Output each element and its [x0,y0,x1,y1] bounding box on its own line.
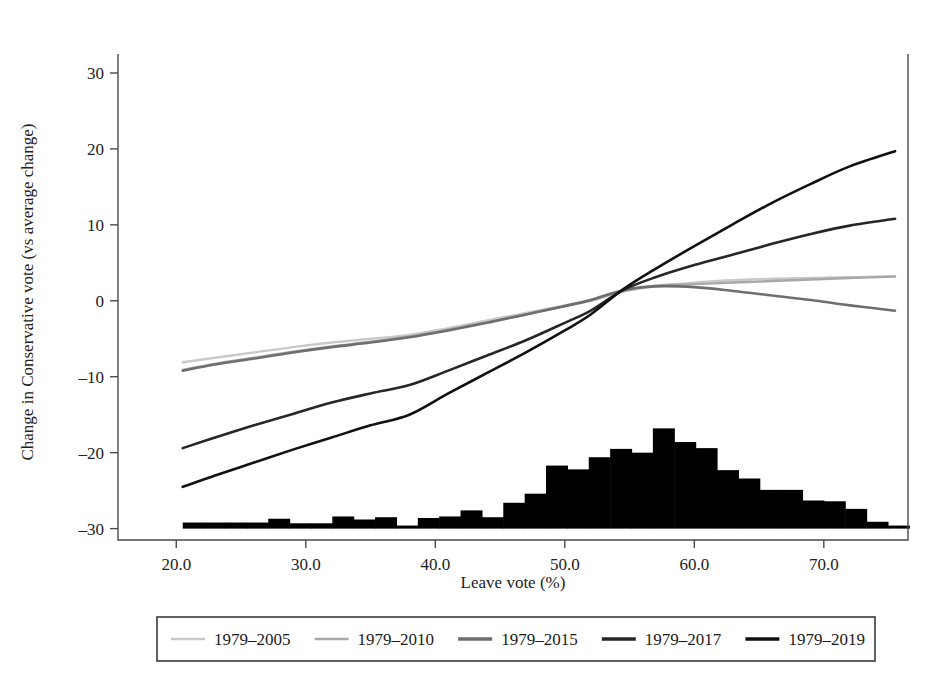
series-layer [183,151,895,487]
y-tick-label: 20 [87,140,104,159]
histogram-bar [653,428,675,528]
y-axis-label: Change in Conservative vote (vs average … [18,123,37,460]
histogram-bar [439,516,461,528]
histogram-bar [589,457,611,528]
histogram-bar [503,503,525,529]
series-line-1979-2005 [183,276,895,362]
x-tick-label: 40.0 [420,555,450,574]
histogram-bar [396,526,418,529]
legend-label-1979-2017[interactable]: 1979–2017 [645,630,722,649]
x-tick-label: 70.0 [809,555,839,574]
histogram-bar [268,519,290,529]
histogram-bar [225,523,247,529]
series-line-1979-2015 [183,286,895,370]
x-tick-label: 20.0 [161,555,191,574]
histogram-bar [867,522,889,529]
histogram-bar [845,509,867,529]
series-line-1979-2019 [183,151,895,487]
histogram-bar [738,478,760,528]
y-tick-label: –10 [78,368,105,387]
legend-label-1979-2015[interactable]: 1979–2015 [501,630,578,649]
histogram-bar [632,453,654,529]
histogram-bar [290,523,312,528]
histogram-bar [824,501,846,528]
y-tick-label: –20 [78,444,105,463]
y-tick-label: 30 [87,64,104,83]
histogram-bar [418,518,440,529]
legend: 1979–20051979–20101979–20151979–20171979… [157,617,875,661]
legend-label-1979-2019[interactable]: 1979–2019 [788,630,865,649]
series-line-1979-2017 [183,219,895,448]
histogram-bar [461,510,483,528]
histogram-layer [183,428,910,528]
histogram-bar [332,516,354,528]
y-tick-label: 0 [96,292,105,311]
chart-canvas: 3020100–10–20–3020.030.040.050.060.070.0… [0,0,939,700]
histogram-bar [888,526,910,529]
histogram-bar [375,517,397,528]
histogram-bar [482,517,504,528]
histogram-bar [802,501,824,529]
x-tick-label: 50.0 [550,555,580,574]
histogram-bar [760,490,782,529]
histogram-bar [525,494,547,529]
histogram-bar [696,448,718,528]
legend-label-1979-2010[interactable]: 1979–2010 [358,630,435,649]
histogram-bar [204,523,226,529]
x-axis-label: Leave vote (%) [461,573,566,592]
x-tick-label: 60.0 [679,555,709,574]
histogram-bar [717,470,739,528]
y-tick-label: 10 [87,216,104,235]
histogram-bar [311,523,333,528]
histogram-bar [674,442,696,529]
histogram-bar [546,466,568,529]
legend-label-1979-2005[interactable]: 1979–2005 [214,630,291,649]
chart-figure: 3020100–10–20–3020.030.040.050.060.070.0… [0,0,939,700]
histogram-bar [781,490,803,529]
y-tick-label: –30 [78,520,105,539]
histogram-bar [354,519,376,528]
series-line-1979-2010 [183,276,895,369]
x-tick-label: 30.0 [291,555,321,574]
histogram-bar [567,469,589,528]
histogram-bar [247,523,269,529]
histogram-bar [183,523,205,529]
histogram-bar [610,449,632,529]
